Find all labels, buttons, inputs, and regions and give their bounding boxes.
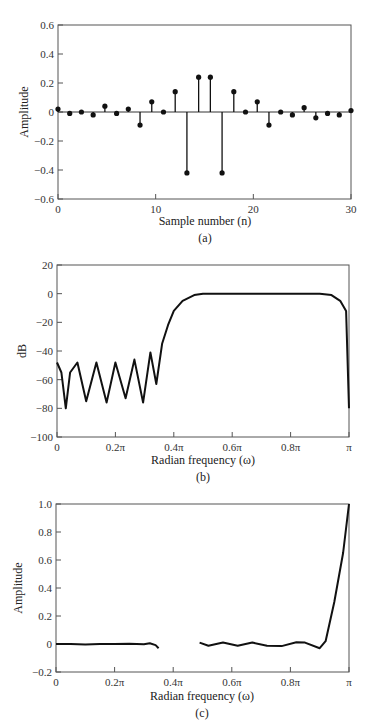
stem-marker xyxy=(266,122,271,127)
stem-marker xyxy=(161,109,166,114)
panel-c-x-label: Radian frequency (ω) xyxy=(150,689,254,703)
panel-b-x-label: Radian frequency (ω) xyxy=(151,453,255,467)
panel-c-y-label: Amplitude xyxy=(11,562,25,613)
y-tick-label: 0 xyxy=(49,106,55,118)
x-tick-label: 0 xyxy=(54,441,60,453)
y-tick-label: −80 xyxy=(36,402,54,414)
stem-marker xyxy=(55,107,60,112)
panel-c-stopband-curve xyxy=(56,643,159,648)
panel-b-frame xyxy=(57,265,349,437)
x-tick-label: 0.6π xyxy=(223,441,243,453)
y-tick-label: −40 xyxy=(36,345,54,357)
x-tick-label: 0 xyxy=(55,203,61,215)
panel-c-caption: (c) xyxy=(195,706,208,720)
y-tick-label: 0.6 xyxy=(40,19,54,31)
stem-marker xyxy=(149,99,154,104)
y-tick-label: −0.2 xyxy=(32,666,52,678)
y-tick-label: −0.6 xyxy=(34,193,54,205)
stem-marker xyxy=(137,122,142,127)
x-tick-label: 0.8π xyxy=(281,676,301,688)
panel-b-x-ticks: 00.2π0.4π0.6π0.8ππ xyxy=(54,432,352,453)
x-tick-label: π xyxy=(346,676,352,688)
y-tick-label: −0.2 xyxy=(34,135,54,147)
panel-b-magnitude-curve xyxy=(57,294,349,409)
y-tick-label: −0.4 xyxy=(34,164,54,176)
stem-marker xyxy=(337,112,342,117)
stem-marker xyxy=(255,99,260,104)
x-tick-label: 30 xyxy=(346,203,358,215)
stem-marker xyxy=(196,75,201,80)
x-tick-label: 0 xyxy=(53,676,59,688)
panel-a-caption: (a) xyxy=(198,231,211,245)
stem-marker xyxy=(91,112,96,117)
panel-a-x-ticks: 0102030 xyxy=(55,194,357,215)
y-tick-label: 0.4 xyxy=(38,582,52,594)
y-tick-label: 0 xyxy=(47,638,53,650)
y-tick-label: 1.0 xyxy=(38,498,52,510)
y-tick-label: 0.8 xyxy=(38,526,52,538)
x-tick-label: π xyxy=(346,441,352,453)
y-tick-label: −100 xyxy=(30,431,53,443)
x-tick-label: 0.2π xyxy=(105,676,125,688)
panel-c-passband-curve xyxy=(200,504,349,648)
stem-marker xyxy=(114,111,119,116)
stem-marker xyxy=(278,109,283,114)
stem-marker xyxy=(102,104,107,109)
x-tick-label: 0.8π xyxy=(281,441,301,453)
stem-marker xyxy=(173,89,178,94)
panel-a-stem-plot: 0.60.40.20−0.2−0.4−0.6 0102030 Sample nu… xyxy=(17,19,357,245)
panel-b-y-label: dB xyxy=(15,344,29,358)
stem-marker xyxy=(348,108,353,113)
stem-marker xyxy=(79,109,84,114)
stem-marker xyxy=(290,112,295,117)
y-tick-label: 0.4 xyxy=(40,48,54,60)
y-tick-label: 0.2 xyxy=(40,77,54,89)
stem-marker xyxy=(231,89,236,94)
stem-marker xyxy=(184,170,189,175)
y-tick-label: 0 xyxy=(48,288,54,300)
stem-marker xyxy=(126,107,131,112)
x-tick-label: 0.4π xyxy=(164,676,184,688)
x-tick-label: 0.2π xyxy=(106,441,126,453)
x-tick-label: 0.4π xyxy=(164,441,184,453)
figure: 0.60.40.20−0.2−0.4−0.6 0102030 Sample nu… xyxy=(0,0,371,724)
panel-b-caption: (b) xyxy=(196,470,210,484)
stem-marker xyxy=(67,111,72,116)
y-tick-label: 0.6 xyxy=(38,554,52,566)
panel-c-frame xyxy=(56,504,349,672)
stem-marker xyxy=(219,170,224,175)
panel-a-x-label: Sample number (n) xyxy=(159,214,252,228)
x-tick-label: 0.6π xyxy=(222,676,242,688)
y-tick-label: −20 xyxy=(36,316,54,328)
y-tick-label: −60 xyxy=(36,374,54,386)
panel-c-amplitude-plot: 1.00.80.60.40.20−0.2 00.2π0.4π0.6π0.8ππ … xyxy=(11,498,352,720)
panel-a-y-label: Amplitude xyxy=(17,86,31,137)
panel-a-stems xyxy=(55,75,353,176)
panel-c-x-ticks: 00.2π0.4π0.6π0.8ππ xyxy=(53,667,352,688)
stem-marker xyxy=(313,115,318,120)
y-tick-label: 0.2 xyxy=(38,610,52,622)
panel-c-y-ticks: 1.00.80.60.40.20−0.2 xyxy=(32,498,61,678)
stem-marker xyxy=(325,111,330,116)
y-tick-label: 20 xyxy=(42,259,54,271)
stem-marker xyxy=(243,109,248,114)
panel-b-db-plot: 200−20−40−60−80−100 00.2π0.4π0.6π0.8ππ R… xyxy=(15,259,352,484)
stem-marker xyxy=(208,75,213,80)
stem-marker xyxy=(302,105,307,110)
